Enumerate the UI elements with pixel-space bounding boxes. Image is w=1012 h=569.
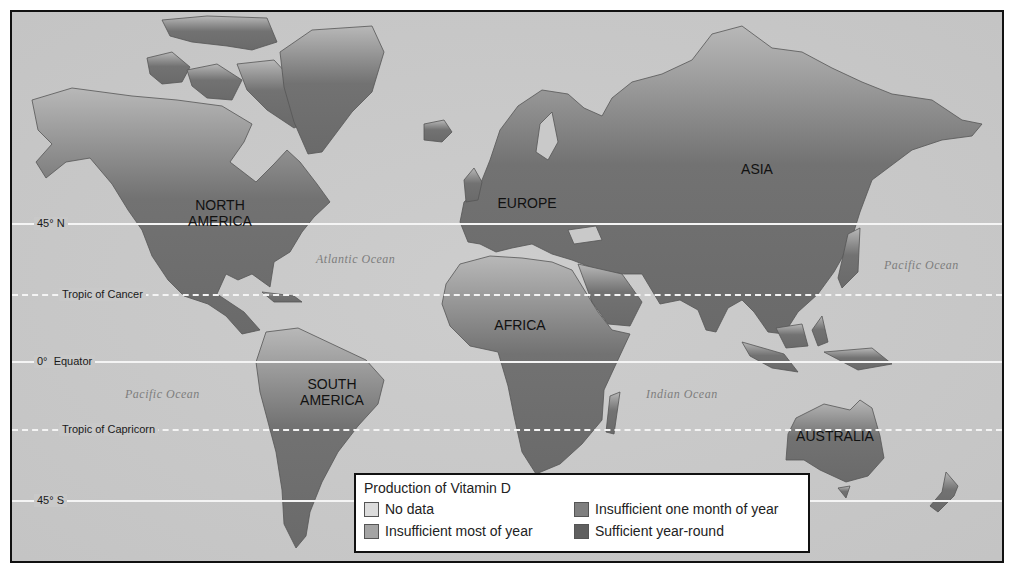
legend-label: Sufficient year-round: [595, 522, 724, 540]
continent-label-asia: ASIA: [732, 161, 782, 177]
latitude-line-equator: [12, 361, 1002, 363]
ocean-label-pacific-east: Pacific Ocean: [884, 258, 959, 273]
continent-label-australia: AUSTRALIA: [785, 428, 885, 444]
continent-label-europe: EUROPE: [492, 195, 562, 211]
legend-swatch-insufficient-most: [364, 524, 379, 539]
legend-item-insufficient-most: Insufficient most of year: [364, 522, 574, 540]
legend-label: Insufficient one month of year: [595, 500, 778, 518]
latitude-label-45s: 45° S: [34, 494, 67, 507]
continent-label-north-america: NORTH AMERICA: [175, 197, 265, 229]
latitude-line-45n: [12, 223, 1002, 225]
latitude-line-tropic-of-cancer: [12, 294, 1002, 296]
legend-swatch-no-data: [364, 502, 379, 517]
legend-swatch-insufficient-one-month: [574, 502, 589, 517]
ocean-label-atlantic: Atlantic Ocean: [316, 252, 395, 267]
continent-label-africa: AFRICA: [490, 317, 550, 333]
latitude-label-45n: 45° N: [34, 217, 68, 230]
legend-label: No data: [385, 500, 434, 518]
legend-title: Production of Vitamin D: [364, 479, 800, 497]
ocean-label-pacific-west: Pacific Ocean: [125, 387, 200, 402]
ocean-label-indian: Indian Ocean: [646, 387, 718, 402]
legend-item-no-data: No data: [364, 500, 574, 518]
continent-label-south-america: SOUTH AMERICA: [292, 376, 372, 408]
latitude-label-tropic-of-cancer: Tropic of Cancer: [59, 288, 146, 301]
latitude-label-equator: 0° Equator: [34, 355, 95, 368]
legend-label: Insufficient most of year: [385, 522, 533, 540]
legend-swatch-sufficient-year-round: [574, 524, 589, 539]
legend: Production of Vitamin D No data Insuffic…: [354, 473, 810, 553]
world-map: 45° N Tropic of Cancer 0° Equator Tropic…: [10, 10, 1004, 563]
legend-item-insufficient-one-month: Insufficient one month of year: [574, 500, 814, 518]
legend-item-sufficient-year-round: Sufficient year-round: [574, 522, 814, 540]
latitude-label-tropic-of-capricorn: Tropic of Capricorn: [59, 423, 158, 436]
